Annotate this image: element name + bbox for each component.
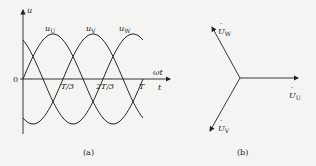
curve-label-uW: uW (119, 24, 131, 34)
phasor-dot-UW: · (220, 20, 222, 28)
y-axis-label: u (27, 6, 32, 15)
phasor-V (210, 78, 240, 131)
curve-label-uV: uV (86, 24, 96, 34)
figure-canvas: u 0 ωt t T/3 2T/3 T uU uV uW (a) UU · UW… (0, 0, 316, 166)
panel-b-phasors: UU · UW · UV · (b) (210, 20, 301, 157)
tick-t-third: T/3 (61, 82, 74, 91)
tick-t: T (139, 82, 145, 91)
phasor-label-UU: UU (289, 91, 301, 101)
caption-b: (b) (237, 148, 248, 157)
curve-label-uU: uU (45, 24, 55, 34)
tick-two-t-third: 2T/3 (95, 82, 114, 91)
phasor-label-UW: UW (218, 27, 232, 37)
phasor-label-UV: UV (218, 124, 230, 134)
panel-a-waveforms: u 0 ωt t T/3 2T/3 T uU uV uW (a) (13, 6, 170, 157)
phasor-dot-UU: · (291, 84, 293, 92)
phasor-dot-UV: · (220, 117, 222, 125)
x-axis-label-t: t (158, 83, 162, 92)
origin-label: 0 (13, 75, 18, 84)
caption-a: (a) (83, 148, 94, 157)
x-axis-label-omega-t: ωt (153, 68, 164, 77)
